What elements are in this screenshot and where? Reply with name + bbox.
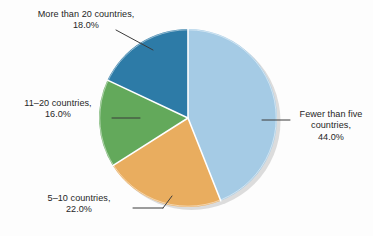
slice-label-more-than-20-countries: More than 20 countries, 18.0%	[28, 9, 144, 32]
slice-label-fewer-than-five-countries: Fewer than five countries, 44.0%	[293, 109, 369, 143]
slice-label-11-20-countries: 11–20 countries, 16.0%	[6, 98, 110, 121]
pie-chart-figure: More than 20 countries, 18.0% 11–20 coun…	[0, 0, 373, 236]
slice-label-5-10-countries: 5–10 countries, 22.0%	[24, 193, 134, 216]
